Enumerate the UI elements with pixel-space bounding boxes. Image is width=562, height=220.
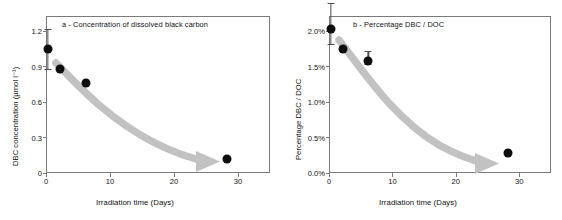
panel-b-ytick-3: 1.5% — [289, 62, 325, 71]
data-point — [81, 79, 90, 88]
panel-b-xtick-2: 20 — [452, 177, 460, 186]
panel-b-ytick-mark-1 — [326, 137, 330, 138]
panel-b-errorbar-cap-bottom-0 — [328, 44, 335, 45]
panel-a-xtick-mark-2 — [174, 173, 175, 177]
panel-a-ytick-3: 0.9 — [14, 62, 42, 71]
panel-b-ytick-1: 0.5% — [289, 133, 325, 142]
plot-frame-b — [329, 16, 551, 173]
panel-a-ytick-mark-2 — [43, 102, 47, 103]
panel-b-xtick-mark-2 — [456, 173, 457, 177]
panel-a-xtick-2: 20 — [170, 177, 178, 186]
panel-b-xtick-1: 10 — [388, 177, 396, 186]
data-point — [223, 154, 232, 163]
panel-a-ytick-1: 0.3 — [14, 133, 42, 142]
panel-a-title: a - Concentration of dissolved black car… — [62, 20, 208, 29]
panel-b-ytick-0: 0.0% — [289, 169, 325, 178]
panel-b-xtick-mark-1 — [392, 173, 393, 177]
panel-a-ytick-0: 0 — [14, 169, 42, 178]
panel-a-xtick-3: 30 — [234, 177, 242, 186]
panel-b: b - Percentage DBC / DOC Percentage DBC … — [281, 0, 562, 220]
panel-a-x-axis-title: Irradiation time (Days) — [96, 198, 174, 207]
panel-b-x-axis-title: Irradiation time (Days) — [379, 198, 457, 207]
panel-b-xtick-mark-3 — [519, 173, 520, 177]
panel-b-errorbar-cap-top-2 — [365, 51, 372, 52]
panel-a: a - Concentration of dissolved black car… — [0, 0, 281, 220]
data-point — [327, 24, 336, 33]
figure-container: a - Concentration of dissolved black car… — [0, 0, 562, 220]
panel-a-ytick-2: 0.6 — [14, 98, 42, 107]
panel-a-xtick-mark-0 — [46, 173, 47, 177]
panel-b-ytick-4: 2.0% — [289, 27, 325, 36]
panel-a-xtick-1: 10 — [106, 177, 114, 186]
panel-a-y-axis-title: DBC concentration (µmol l⁻¹) — [11, 67, 20, 166]
panel-b-ytick-2: 1.0% — [289, 98, 325, 107]
panel-b-y-axis-title: Percentage DBC / DOC — [294, 79, 303, 160]
panel-b-title: b - Percentage DBC / DOC — [353, 20, 444, 29]
panel-b-xtick-mark-0 — [329, 173, 330, 177]
data-point — [56, 65, 65, 74]
panel-a-errorbar-cap-top-0 — [45, 29, 52, 30]
panel-a-errorbar-cap-bottom-0 — [45, 69, 52, 70]
data-point — [364, 56, 373, 65]
panel-a-ytick-4: 1.2 — [14, 27, 42, 36]
panel-b-xtick-0: 0 — [327, 177, 331, 186]
panel-a-xtick-mark-1 — [110, 173, 111, 177]
panel-a-xtick-0: 0 — [44, 177, 48, 186]
panel-b-errorbar-cap-top-0 — [328, 3, 335, 4]
plot-frame-a — [46, 16, 270, 173]
panel-b-ytick-mark-2 — [326, 102, 330, 103]
panel-a-xtick-mark-3 — [238, 173, 239, 177]
panel-b-ytick-mark-3 — [326, 66, 330, 67]
panel-b-xtick-3: 30 — [515, 177, 523, 186]
panel-a-ytick-mark-1 — [43, 137, 47, 138]
data-point — [504, 149, 513, 158]
data-point — [44, 45, 53, 54]
data-point — [338, 44, 347, 53]
